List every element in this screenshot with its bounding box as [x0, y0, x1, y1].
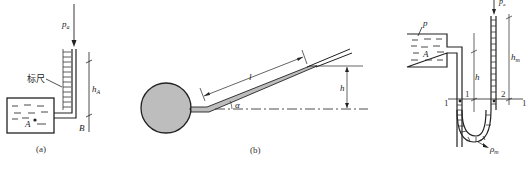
angle-label: α [235, 100, 240, 110]
tank [7, 98, 54, 133]
height-m-label: hm [511, 52, 521, 63]
section-left-label: 1 [444, 98, 449, 108]
caption-b: (b) [250, 145, 261, 155]
tube-lower-wall [316, 53, 352, 67]
height-label: hA [92, 84, 101, 95]
section-right-label: 1 [522, 98, 527, 108]
figure-a-piezometer: A pa 标尺 hA B (a) [7, 4, 101, 154]
pressure-vessel [407, 34, 462, 147]
height-label-c: h [475, 72, 480, 82]
vessel-sphere [141, 83, 191, 133]
point-2-label: 2 [501, 89, 506, 99]
scale-label: 标尺 [27, 73, 45, 84]
caption-a: (a) [36, 144, 46, 154]
figure-c-u-tube-manometer: A p pa 1 1 1 2 [407, 0, 527, 155]
scale-pointer [46, 79, 62, 87]
point-a-label: A [24, 119, 31, 129]
vessel-pressure-label: p [422, 18, 428, 28]
tube-upper-wall [307, 49, 350, 67]
top-pressure-label: pa [498, 0, 506, 7]
pressure-label: pa [61, 19, 70, 30]
figure-b-inclined-manometer: l h α (b) [141, 49, 368, 155]
point-a-dot [33, 118, 36, 121]
fluid-density-label: ρm [489, 144, 499, 155]
hydrostatics-figure: A pa 标尺 hA B (a) [0, 0, 528, 169]
inclined-tube-fluid [191, 66, 317, 112]
height-label-b: h [340, 83, 345, 93]
pipe [54, 49, 76, 118]
scale-ruler [63, 49, 71, 110]
point-1-label: 1 [465, 89, 470, 99]
vessel-label: A [422, 49, 429, 59]
pressure-arrowhead [72, 40, 77, 47]
point-b-label: B [79, 123, 85, 133]
